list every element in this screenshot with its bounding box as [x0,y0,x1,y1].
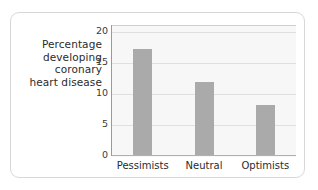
chart-figure: Percentage developing coronary heart dis… [0,0,318,190]
y-axis-tick-labels: 05101520 [86,0,108,190]
x-tick-label-pessimists: Pessimists [112,160,173,172]
x-tick-label-neutral: Neutral [173,160,234,172]
y-tick-label-15: 15 [88,57,108,67]
x-axis-spine [112,155,296,156]
bar-neutral [195,82,214,155]
bar-optimists [256,105,275,155]
y-tick-label-0: 0 [88,150,108,160]
bar-series [112,25,296,155]
y-tick-label-20: 20 [88,26,108,36]
y-tick-label-5: 5 [88,119,108,129]
bar-pessimists [133,49,152,155]
x-tick-label-optimists: Optimists [235,160,296,172]
y-tick-label-10: 10 [88,88,108,98]
